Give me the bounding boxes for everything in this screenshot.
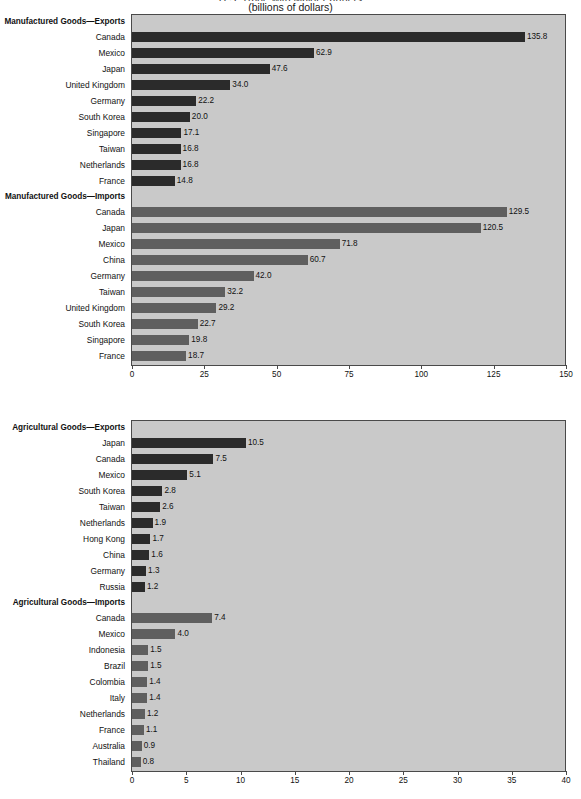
bar-row: United Kingdom29.2 bbox=[0, 300, 581, 316]
bar-wrapper: 7.4 bbox=[132, 613, 566, 623]
bar-value-label: 1.2 bbox=[147, 708, 158, 720]
bar-value-label: 1.2 bbox=[147, 581, 158, 593]
bar-value-label: 32.2 bbox=[227, 286, 243, 298]
bar bbox=[132, 176, 175, 186]
section-header-row: Agricultural Goods—Exports bbox=[0, 420, 581, 435]
bar-wrapper: 17.1 bbox=[132, 128, 566, 138]
bar-wrapper: 1.5 bbox=[132, 661, 566, 671]
axis-tick bbox=[349, 771, 350, 775]
section-header-label: Manufactured Goods—Exports bbox=[0, 14, 128, 29]
axis-tick-label: 0 bbox=[130, 776, 135, 786]
section-header-row: Manufactured Goods—Exports bbox=[0, 14, 581, 29]
axis-tick bbox=[295, 771, 296, 775]
axis-tick bbox=[241, 771, 242, 775]
axis-tick bbox=[566, 771, 567, 775]
axis-tick bbox=[132, 365, 133, 369]
bar bbox=[132, 32, 525, 42]
axis-tick bbox=[421, 365, 422, 369]
category-label: Japan bbox=[0, 61, 128, 77]
category-label: Netherlands bbox=[0, 706, 128, 722]
bar bbox=[132, 582, 145, 592]
bar-row: China1.6 bbox=[0, 547, 581, 563]
bar bbox=[132, 112, 190, 122]
bar-value-label: 1.3 bbox=[148, 565, 159, 577]
axis-tick bbox=[494, 365, 495, 369]
bar bbox=[132, 351, 186, 361]
axis-tick bbox=[132, 771, 133, 775]
bar bbox=[132, 48, 314, 58]
bar bbox=[132, 271, 254, 281]
bar-row: Canada7.5 bbox=[0, 451, 581, 467]
bar-wrapper: 135.8 bbox=[132, 32, 566, 42]
bar bbox=[132, 550, 149, 560]
bar-value-label: 2.6 bbox=[162, 501, 173, 513]
bar-value-label: 7.4 bbox=[214, 612, 225, 624]
axis-tick bbox=[512, 771, 513, 775]
bar-value-label: 1.5 bbox=[150, 644, 161, 656]
bar bbox=[132, 486, 162, 496]
category-label: France bbox=[0, 722, 128, 738]
bar-row: Mexico4.0 bbox=[0, 626, 581, 642]
category-label: Netherlands bbox=[0, 157, 128, 173]
bar-wrapper: 2.6 bbox=[132, 502, 566, 512]
bar-wrapper: 5.1 bbox=[132, 470, 566, 480]
bar-value-label: 1.4 bbox=[149, 692, 160, 704]
category-label: Japan bbox=[0, 435, 128, 451]
bar-wrapper: 22.7 bbox=[132, 319, 566, 329]
bar-value-label: 34.0 bbox=[232, 79, 248, 91]
category-label: Indonesia bbox=[0, 642, 128, 658]
bar-row: Taiwan2.6 bbox=[0, 499, 581, 515]
category-label: Germany bbox=[0, 563, 128, 579]
bar-row: Netherlands1.9 bbox=[0, 515, 581, 531]
axis-tick-label: 100 bbox=[414, 370, 428, 380]
bar-row: Singapore19.8 bbox=[0, 332, 581, 348]
axis-tick-label: 150 bbox=[559, 370, 573, 380]
bar-row: France1.1 bbox=[0, 722, 581, 738]
bar-value-label: 14.8 bbox=[177, 175, 193, 187]
category-label: Japan bbox=[0, 220, 128, 236]
bar bbox=[132, 454, 213, 464]
category-label: Canada bbox=[0, 451, 128, 467]
category-label: Mexico bbox=[0, 236, 128, 252]
bar-rows-agricultural-goods: Agricultural Goods—ExportsJapan10.5Canad… bbox=[0, 420, 581, 770]
category-label: Singapore bbox=[0, 125, 128, 141]
category-label: Australia bbox=[0, 738, 128, 754]
bar-row: Canada7.4 bbox=[0, 610, 581, 626]
bar-wrapper: 1.9 bbox=[132, 518, 566, 528]
bar-wrapper: 1.2 bbox=[132, 582, 566, 592]
bar bbox=[132, 661, 148, 671]
bar-wrapper: 47.6 bbox=[132, 64, 566, 74]
bar-wrapper: 19.8 bbox=[132, 335, 566, 345]
bar-wrapper: 60.7 bbox=[132, 255, 566, 265]
category-label: Taiwan bbox=[0, 141, 128, 157]
bar-value-label: 0.8 bbox=[143, 756, 154, 768]
bar-wrapper: 129.5 bbox=[132, 207, 566, 217]
bar-row: Germany22.2 bbox=[0, 93, 581, 109]
category-label: Mexico bbox=[0, 626, 128, 642]
axis-tick-label: 25 bbox=[399, 776, 408, 786]
bar-value-label: 1.5 bbox=[150, 660, 161, 672]
bar bbox=[132, 207, 507, 217]
bar-value-label: 1.1 bbox=[146, 724, 157, 736]
bar-value-label: 16.8 bbox=[183, 159, 199, 171]
axis-tick bbox=[277, 365, 278, 369]
bar-wrapper: 1.7 bbox=[132, 534, 566, 544]
bar bbox=[132, 80, 230, 90]
axis-tick bbox=[349, 365, 350, 369]
bar-value-label: 4.0 bbox=[177, 628, 188, 640]
bar-value-label: 16.8 bbox=[183, 143, 199, 155]
bar-row: Japan10.5 bbox=[0, 435, 581, 451]
bar-wrapper: 16.8 bbox=[132, 160, 566, 170]
category-label: Taiwan bbox=[0, 284, 128, 300]
bar bbox=[132, 741, 142, 751]
axis-tick-label: 20 bbox=[344, 776, 353, 786]
axis-tick bbox=[186, 771, 187, 775]
bar bbox=[132, 693, 147, 703]
category-label: United Kingdom bbox=[0, 300, 128, 316]
category-label: France bbox=[0, 173, 128, 189]
bar-row: Hong Kong1.7 bbox=[0, 531, 581, 547]
bar-row: Russia1.2 bbox=[0, 579, 581, 595]
bar-value-label: 47.6 bbox=[272, 63, 288, 75]
bar-row: China60.7 bbox=[0, 252, 581, 268]
bar-wrapper: 1.1 bbox=[132, 725, 566, 735]
